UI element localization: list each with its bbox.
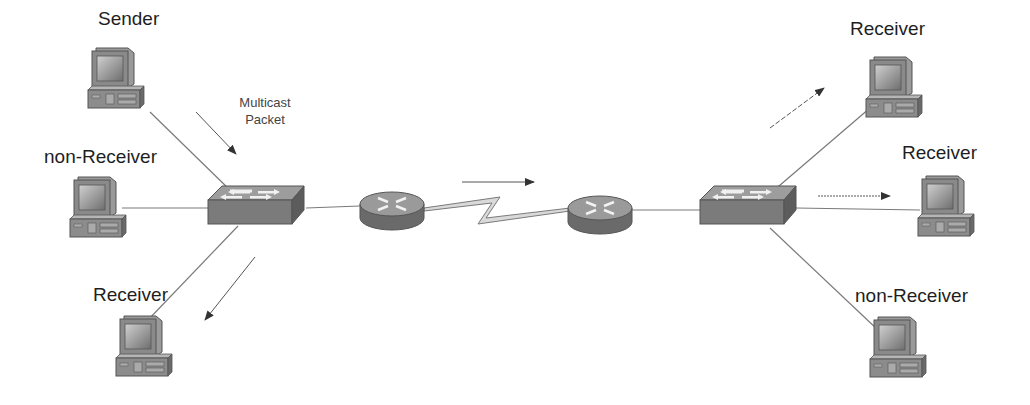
workstation-sender-icon[interactable]: [88, 48, 144, 108]
label-left-receiver: Receiver: [93, 284, 168, 306]
workstation-left-nonreceiver-icon[interactable]: [70, 177, 126, 237]
label-right-mid-receiver: Receiver: [902, 142, 977, 164]
label-right-top-receiver: Receiver: [850, 18, 925, 40]
arrow-to-right-top-receiver-icon: [770, 88, 824, 128]
arrow-to-left-receiver-icon: [205, 257, 255, 320]
label-left-nonreceiver: non-Receiver: [44, 146, 157, 168]
switch-left-icon[interactable]: [208, 186, 304, 224]
label-sender: Sender: [98, 8, 159, 30]
serial-link: [424, 197, 570, 224]
switch-right-icon[interactable]: [700, 186, 796, 224]
link-switch-receiver-mid: [796, 208, 920, 210]
annotation-line-2: Packet: [230, 111, 300, 128]
workstation-right-nonreceiver-icon[interactable]: [870, 317, 926, 377]
router-left-icon[interactable]: [360, 192, 424, 230]
workstation-left-receiver-icon[interactable]: [116, 316, 172, 376]
link-switch-receiver-top: [772, 108, 870, 192]
link-sender-switch: [150, 112, 232, 192]
link-switch-router: [306, 206, 360, 208]
link-switch-nonreceiver-bottom: [770, 228, 878, 330]
label-right-nonreceiver: non-Receiver: [855, 285, 968, 307]
topology-canvas: [0, 0, 1030, 405]
annotation-line-1: Multicast: [230, 94, 300, 111]
workstation-right-mid-receiver-icon[interactable]: [918, 176, 974, 236]
workstation-right-top-receiver-icon[interactable]: [866, 57, 922, 117]
router-right-icon[interactable]: [568, 196, 632, 234]
multicast-packet-annotation: Multicast Packet: [230, 94, 300, 128]
